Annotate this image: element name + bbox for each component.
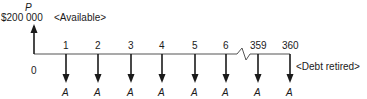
arrow-down-icon xyxy=(159,74,166,83)
arrow-down-icon xyxy=(223,74,230,83)
arrow-up-icon xyxy=(31,24,38,33)
period-label: 2 xyxy=(95,40,101,51)
break-marker xyxy=(237,48,250,60)
cash-flow-diagram: P $200 000 <Available> 0 1 2 3 4 5 6 359… xyxy=(0,0,367,99)
end-note: <Debt retired> xyxy=(296,61,360,72)
period-label: 3 xyxy=(128,40,134,51)
arrow-down-icon xyxy=(63,74,70,83)
period-label: 359 xyxy=(250,40,267,51)
present-value-amount: $200 000 xyxy=(1,12,43,23)
arrow-down-icon xyxy=(192,74,199,83)
period-label: 4 xyxy=(159,40,165,51)
flow-label: A xyxy=(190,87,198,98)
period-arrows xyxy=(63,54,294,83)
period-label: 360 xyxy=(282,40,299,51)
flow-label: A xyxy=(157,87,165,98)
arrow-down-icon xyxy=(287,74,294,83)
period-label: 1 xyxy=(63,40,69,51)
arrow-down-icon xyxy=(255,74,262,83)
period-label: 5 xyxy=(192,40,198,51)
present-value-arrow xyxy=(31,24,38,54)
flow-label: A xyxy=(126,87,134,98)
arrow-down-icon xyxy=(95,74,102,83)
arrow-down-icon xyxy=(128,74,135,83)
flow-label: A xyxy=(253,87,261,98)
present-value-note: <Available> xyxy=(54,12,106,23)
flow-label: A xyxy=(61,87,69,98)
flow-label: A xyxy=(93,87,101,98)
flow-label: A xyxy=(285,87,293,98)
origin-label: 0 xyxy=(31,65,37,76)
period-label: 6 xyxy=(223,40,229,51)
flow-label: A xyxy=(221,87,229,98)
